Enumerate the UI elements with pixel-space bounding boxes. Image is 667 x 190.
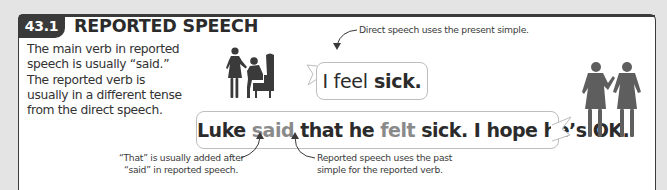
annotation-past-simple: Reported speech uses the past simple for… (317, 152, 452, 176)
annotation-line: Reported speech uses the past (317, 152, 452, 164)
annotation-line: simple for the reported verb. (317, 164, 452, 176)
annotation-line: “That” is usually added after (119, 152, 243, 164)
reported-speech-panel: 43.1 REPORTED SPEECH The main verb in re… (18, 14, 656, 190)
annotation-line: “said” in reported speech. (119, 164, 243, 176)
annotation-that-added: “That” is usually added after “said” in … (119, 152, 243, 176)
